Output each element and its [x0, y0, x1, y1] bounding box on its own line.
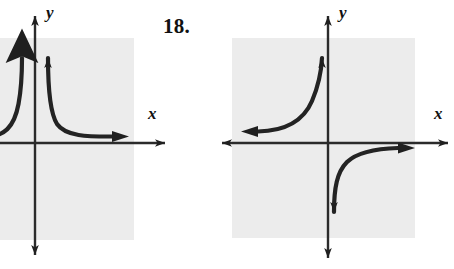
right-graph-svg [0, 0, 454, 269]
figure-stage: y x 18. [0, 0, 454, 269]
right-graph-figure: y x [0, 0, 454, 269]
right-graph-y-axis [324, 16, 332, 258]
right-graph-lower-right-branch [330, 143, 415, 213]
right-graph-upper-left-branch [241, 58, 326, 137]
right-graph-x-axis-label: x [434, 105, 443, 122]
right-graph-y-axis-label: y [339, 4, 347, 21]
right-graph-x-axis [222, 139, 448, 147]
